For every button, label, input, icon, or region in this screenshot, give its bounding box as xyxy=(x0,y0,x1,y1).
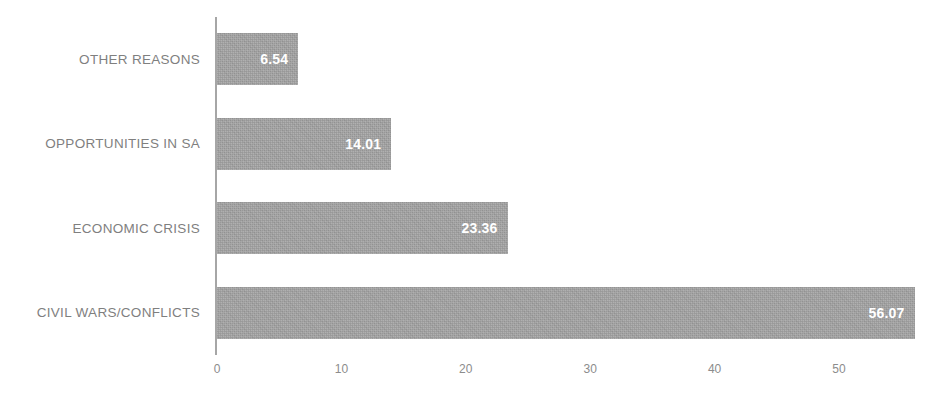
bar-value-label: 14.01 xyxy=(345,136,391,152)
category-label: CIVIL WARS/CONFLICTS xyxy=(0,305,200,320)
bar-row: CIVIL WARS/CONFLICTS56.07 xyxy=(0,271,950,356)
bar-value-label: 23.36 xyxy=(462,220,508,236)
x-axis: 01020304050 xyxy=(0,355,950,385)
bar-container: 6.54 xyxy=(217,33,298,85)
bar-row: OTHER REASONS6.54 xyxy=(0,17,950,102)
bar-chart: OTHER REASONS6.54OPPORTUNITIES IN SA14.0… xyxy=(0,0,950,405)
bar-row: OPPORTUNITIES IN SA14.01 xyxy=(0,102,950,187)
x-axis-tick-label: 30 xyxy=(584,362,597,376)
category-label: OTHER REASONS xyxy=(0,52,200,67)
bar-container: 23.36 xyxy=(217,202,508,254)
bar[interactable]: 56.07 xyxy=(217,287,915,339)
bar-container: 14.01 xyxy=(217,118,391,170)
bar[interactable]: 6.54 xyxy=(217,33,298,85)
x-axis-tick-label: 0 xyxy=(214,362,221,376)
bar-value-label: 56.07 xyxy=(868,305,914,321)
x-axis-tick-label: 20 xyxy=(459,362,472,376)
bar-row: ECONOMIC CRISIS23.36 xyxy=(0,186,950,271)
bar-container: 56.07 xyxy=(217,287,915,339)
bar[interactable]: 23.36 xyxy=(217,202,508,254)
category-label: OPPORTUNITIES IN SA xyxy=(0,136,200,151)
bar-value-label: 6.54 xyxy=(260,51,298,67)
bar-rows: OTHER REASONS6.54OPPORTUNITIES IN SA14.0… xyxy=(0,17,950,355)
x-axis-tick-label: 10 xyxy=(335,362,348,376)
category-label: ECONOMIC CRISIS xyxy=(0,221,200,236)
x-axis-tick-label: 40 xyxy=(708,362,721,376)
x-axis-tick-label: 50 xyxy=(832,362,845,376)
bar[interactable]: 14.01 xyxy=(217,118,391,170)
